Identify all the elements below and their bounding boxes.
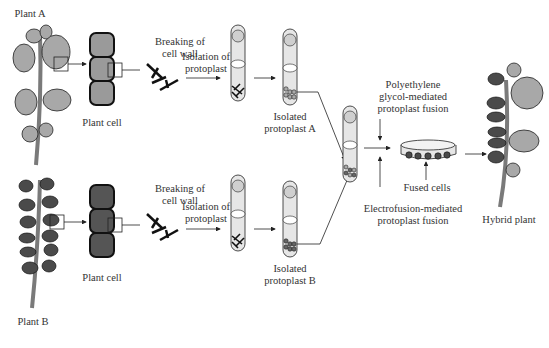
tube-a-digestion bbox=[231, 25, 245, 101]
tube-isolated-protoplast-b bbox=[283, 181, 297, 257]
breaking-b-label-1: Breaking of bbox=[155, 183, 205, 194]
tube-b-digestion bbox=[231, 175, 245, 251]
isolation-a-label-2: protoplast bbox=[185, 63, 227, 74]
plant-b-label: Plant B bbox=[17, 316, 48, 327]
isolated-b-label-2: protoplast B bbox=[264, 275, 316, 286]
isolated-a-label-1: Isolated bbox=[273, 111, 307, 122]
isolated-b-label-1: Isolated bbox=[273, 263, 307, 274]
plant-b-stem bbox=[32, 180, 40, 308]
tube-mixed-protoplasts bbox=[343, 106, 357, 182]
isolation-b-label-1: Isolation of bbox=[182, 201, 231, 212]
plant-cell-a-label: Plant cell bbox=[82, 117, 121, 128]
hybrid-plant-label: Hybrid plant bbox=[482, 214, 535, 225]
isolation-a-label-1: Isolation of bbox=[182, 51, 231, 62]
tube-isolated-protoplast-a bbox=[283, 29, 297, 105]
peg-label-1: Polyethylene bbox=[386, 79, 441, 90]
plant-cell-b bbox=[90, 185, 114, 257]
peg-label-2: glycol-mediated bbox=[379, 91, 448, 102]
hybrid-plant bbox=[487, 63, 543, 207]
electro-label-1: Electrofusion-mediated bbox=[364, 203, 463, 214]
plant-a-label: Plant A bbox=[14, 8, 46, 19]
plant-cell-a bbox=[90, 33, 114, 105]
electro-label-2: protoplast fusion bbox=[378, 215, 450, 226]
peg-label-3: protoplast fusion bbox=[378, 103, 450, 114]
plant-cell-b-label: Plant cell bbox=[82, 272, 121, 283]
petri-dish-fused-cells bbox=[401, 140, 456, 159]
isolation-b-label-2: protoplast bbox=[185, 213, 227, 224]
isolated-a-label-2: protoplast A bbox=[264, 123, 316, 134]
plant-a: Plant A bbox=[13, 8, 86, 165]
cell-wall-fragments-b bbox=[147, 214, 178, 240]
cell-wall-fragments-a bbox=[147, 64, 178, 90]
plant-b: Plant B bbox=[17, 178, 86, 327]
breaking-a-label-1: Breaking of bbox=[155, 36, 205, 47]
fused-cells-label: Fused cells bbox=[404, 182, 451, 193]
protoplast-fusion-diagram: Plant A Plant cell Breaking of cell wall… bbox=[0, 0, 549, 348]
